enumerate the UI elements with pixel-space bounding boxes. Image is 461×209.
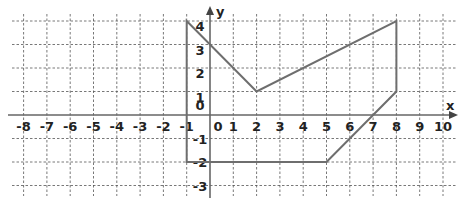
- x-tick-label: 3: [275, 119, 284, 134]
- x-tick-label: 6: [345, 119, 354, 134]
- x-tick-label: 7: [369, 119, 378, 134]
- x-tick-label: -4: [110, 119, 124, 134]
- x-tick-label: -6: [63, 119, 77, 134]
- y-axis-arrow-icon: [206, 6, 214, 15]
- x-axis-label: x: [446, 98, 455, 113]
- y-tick-label: 2: [195, 66, 204, 81]
- x-tick-label: -7: [40, 119, 54, 134]
- x-tick-label: 5: [322, 119, 331, 134]
- x-tick-label: -5: [86, 119, 100, 134]
- x-tick-label: 1: [229, 119, 238, 134]
- y-tick-label: -1: [193, 132, 207, 147]
- y-tick-label: 3: [195, 43, 204, 58]
- x-tick-label: 9: [415, 119, 424, 134]
- grid: [12, 14, 456, 196]
- x-tick-label: 8: [392, 119, 401, 134]
- x-tick-label: 0: [213, 119, 222, 134]
- coordinate-plane: x y -8-7-6-5-4-3-2-1012345678910-3-2-101…: [0, 0, 461, 209]
- y-axis-label: y: [216, 4, 225, 19]
- x-tick-label: -3: [133, 119, 147, 134]
- x-tick-label: -2: [156, 119, 170, 134]
- tick-labels: -8-7-6-5-4-3-2-1012345678910-3-2-101234: [16, 19, 452, 194]
- x-tick-label: -8: [16, 119, 30, 134]
- x-tick-label: 10: [434, 119, 452, 134]
- y-tick-label: -3: [193, 179, 207, 194]
- x-tick-label: 2: [252, 119, 261, 134]
- x-tick-label: 4: [299, 119, 308, 134]
- y-tick-label: 1: [195, 90, 204, 105]
